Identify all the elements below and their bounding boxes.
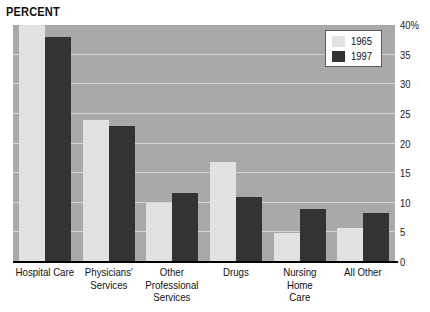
legend-item-1965: 1965 <box>332 35 374 47</box>
bar-1997 <box>236 197 262 262</box>
y-axis-ticks: 40%35302520151050 <box>398 25 430 262</box>
y-tick-label: 30 <box>400 78 411 90</box>
y-tick-label: 5 <box>400 226 405 238</box>
bar-group <box>140 25 204 262</box>
y-tick-label: 25 <box>400 108 411 120</box>
bar-1997 <box>363 213 389 262</box>
legend: 1965 1997 <box>325 30 382 67</box>
legend-item-1997: 1997 <box>332 50 374 62</box>
bar-1965 <box>210 162 236 262</box>
bar-group <box>268 25 332 262</box>
bar-chart: PERCENT 40%35302520151050 Hospital CareP… <box>0 0 430 312</box>
bar-group <box>204 25 268 262</box>
bar-1965 <box>19 25 45 262</box>
legend-label-1997: 1997 <box>351 50 372 62</box>
bar-1997 <box>172 193 198 262</box>
x-axis-label: All Other <box>334 266 393 310</box>
bar-1997 <box>109 126 135 262</box>
x-axis-labels: Hospital CarePhysicians'ServicesOther Pr… <box>13 266 395 310</box>
x-axis-label: Nursing HomeCare <box>270 266 329 310</box>
chart-title: PERCENT <box>6 5 60 19</box>
x-axis-label: Physicians'Services <box>79 266 138 310</box>
bar-1965 <box>274 233 300 262</box>
y-tick-label: 10 <box>400 197 411 209</box>
x-axis-line <box>13 261 398 263</box>
y-tick-label: 35 <box>400 49 411 61</box>
y-tick-label: 20 <box>400 138 411 150</box>
bar-1965 <box>146 203 172 262</box>
legend-swatch-icon-1997 <box>332 51 345 62</box>
x-axis-label: Hospital Care <box>16 266 75 310</box>
bar-group <box>13 25 77 262</box>
bar-1997 <box>45 37 71 262</box>
bar-1965 <box>83 120 109 262</box>
y-tick-label: 15 <box>400 167 411 179</box>
bar-group <box>77 25 141 262</box>
bar-1965 <box>337 228 363 262</box>
y-tick-label: 40% <box>400 19 419 31</box>
y-tick-label: 0 <box>400 256 405 268</box>
legend-label-1965: 1965 <box>351 35 372 47</box>
legend-swatch-icon-1965 <box>332 36 345 47</box>
x-axis-label: Drugs <box>207 266 266 310</box>
bar-1997 <box>300 209 326 262</box>
x-axis-label: Other ProfessionalServices <box>143 266 202 310</box>
